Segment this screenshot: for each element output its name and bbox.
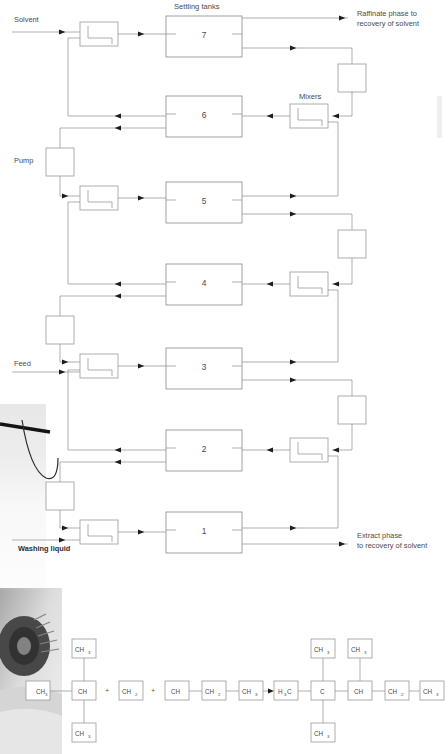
chem-text: C	[320, 688, 325, 695]
chem-node-c-quaternary: C	[311, 681, 335, 700]
tank-number-5: 5	[202, 196, 207, 206]
arrow-tank5-bottom	[290, 211, 296, 216]
arrow-mixer7-out	[138, 31, 144, 36]
arrow-pump7-out	[333, 113, 339, 118]
chem-text: CH	[351, 646, 361, 653]
chem-text: CH	[205, 688, 215, 695]
chem-node-ch2-a: CH 2	[119, 681, 143, 700]
label-washing-liquid: Washing liquid	[18, 544, 71, 553]
chem-node-ch-center: CH	[72, 681, 96, 700]
tank2-bottom-to-pump	[60, 462, 166, 482]
arrow-stage4-return	[115, 281, 121, 286]
arrow-washing-in	[59, 537, 65, 542]
process-flow-diagram-page: Settling tanks Mixers Solvent Pump Feed …	[0, 0, 448, 754]
pump-3[interactable]	[338, 396, 366, 424]
chem-node-h3c: H 3 C	[274, 681, 298, 700]
pump3-to-mixer2	[332, 424, 352, 450]
mixer-2[interactable]	[290, 438, 328, 462]
mixer-7[interactable]	[80, 22, 118, 46]
chem-text: CH	[122, 688, 132, 695]
settling-tank-7[interactable]: 7	[166, 16, 242, 57]
arrow-mixer6-out	[267, 113, 273, 118]
arrow-extract-out	[339, 541, 345, 546]
pump-2[interactable]	[46, 482, 74, 510]
chem-node-ch3-d: CH 3	[239, 681, 263, 700]
chem-text: CH	[314, 730, 324, 737]
chem-text: CH	[354, 688, 364, 695]
stage2-to-mixer3-return	[68, 370, 124, 450]
arrow-tank5-top	[290, 193, 296, 198]
page-margin-label	[437, 96, 442, 138]
chem-node-ch3-c-bottom: CH 3	[311, 723, 335, 742]
diagram-canvas: Settling tanks Mixers Solvent Pump Feed …	[0, 0, 448, 754]
settling-tank-1[interactable]: 1	[166, 512, 242, 553]
arrow-stage2-return	[115, 447, 121, 452]
plus-sign-1: +	[105, 687, 109, 694]
mixer-3[interactable]	[80, 354, 118, 378]
arrow-stage6-return	[115, 113, 121, 118]
arrow-mixer3-out	[138, 363, 144, 368]
chem-node-ch3-left: CH 3	[26, 681, 50, 700]
label-raffinate-line1: Raffinate phase to	[357, 9, 417, 18]
arrow-raffinate-out	[339, 15, 345, 20]
arrow-tank2-bottom	[115, 459, 121, 464]
arrow-mixer4-out	[267, 281, 273, 286]
pump4-to-mixer3	[60, 344, 80, 362]
settling-tank-6[interactable]: 6	[166, 96, 242, 137]
mixer-1[interactable]	[80, 520, 118, 544]
arrow-feed-in	[59, 369, 65, 374]
label-feed: Feed	[14, 359, 31, 368]
tank6-bottom-to-pump	[60, 128, 166, 148]
chem-text: H	[278, 688, 283, 695]
mixer-5[interactable]	[80, 186, 118, 210]
pump-main[interactable]	[46, 148, 74, 176]
decorative-photo-bottom-left	[0, 588, 62, 754]
arrow-pump5-out	[333, 281, 339, 286]
reaction-arrow-head	[268, 689, 274, 694]
mixer-6[interactable]	[290, 104, 328, 128]
arrow-tank1-top	[290, 525, 296, 530]
pump-main-to-mixer5	[60, 176, 80, 196]
chem-node-ch-product: CH	[348, 681, 372, 700]
chem-node-ch3-product-end: CH 3	[420, 681, 444, 700]
chem-text: CH	[423, 688, 433, 695]
tank7-bottom-to-pump	[242, 48, 352, 64]
pump-4[interactable]	[46, 316, 74, 344]
pump7-to-mixer6	[332, 92, 352, 116]
mixer-4[interactable]	[290, 272, 328, 296]
label-solvent: Solvent	[14, 15, 39, 24]
chem-node-ch2-c: CH 2	[202, 681, 226, 700]
settling-tank-4[interactable]: 4	[166, 264, 242, 305]
arrow-tank6-bottom	[115, 125, 121, 130]
settling-tank-5[interactable]: 5	[166, 182, 242, 223]
tank5-bottom-to-pump	[242, 214, 352, 230]
tank-number-7: 7	[202, 30, 207, 40]
chem-node-ch3-top: CH 3	[72, 639, 96, 658]
arrow-mixer2-out	[267, 447, 273, 452]
arrow-pump2-out	[62, 525, 68, 530]
chem-node-ch2-product: CH 2	[385, 681, 409, 700]
stage4-to-mixer5-return	[68, 202, 124, 284]
arrow-tank3-bottom	[290, 377, 296, 382]
chem-text: CH	[314, 646, 324, 653]
arrow-pump-main-out	[62, 193, 68, 198]
chem-text: CH	[75, 730, 85, 737]
chem-text: CH	[242, 688, 252, 695]
tank-number-3: 3	[202, 362, 207, 372]
settling-tank-3[interactable]: 3	[166, 348, 242, 389]
plus-sign-2: +	[151, 687, 155, 694]
chem-node-ch3-bottom: CH 3	[72, 723, 96, 742]
label-extract-line1: Extract phase	[357, 531, 402, 540]
pump-5[interactable]	[338, 230, 366, 258]
chem-node-ch-b: CH	[165, 681, 189, 700]
stage6-to-mixer7-return	[68, 38, 124, 116]
chem-text: CH	[388, 688, 398, 695]
tank-number-4: 4	[202, 278, 207, 288]
label-extract-line2: to recovery of solvent	[357, 541, 427, 550]
arrow-tank3-top	[290, 359, 296, 364]
reaction-scheme: + + CH 3 CH CH 3 CH 3 CH 2	[26, 639, 444, 742]
arrow-mixer5-out	[138, 195, 144, 200]
settling-tank-2[interactable]: 2	[166, 430, 242, 471]
pump-7[interactable]	[338, 64, 366, 92]
tank3-bottom-to-pump	[242, 380, 352, 396]
